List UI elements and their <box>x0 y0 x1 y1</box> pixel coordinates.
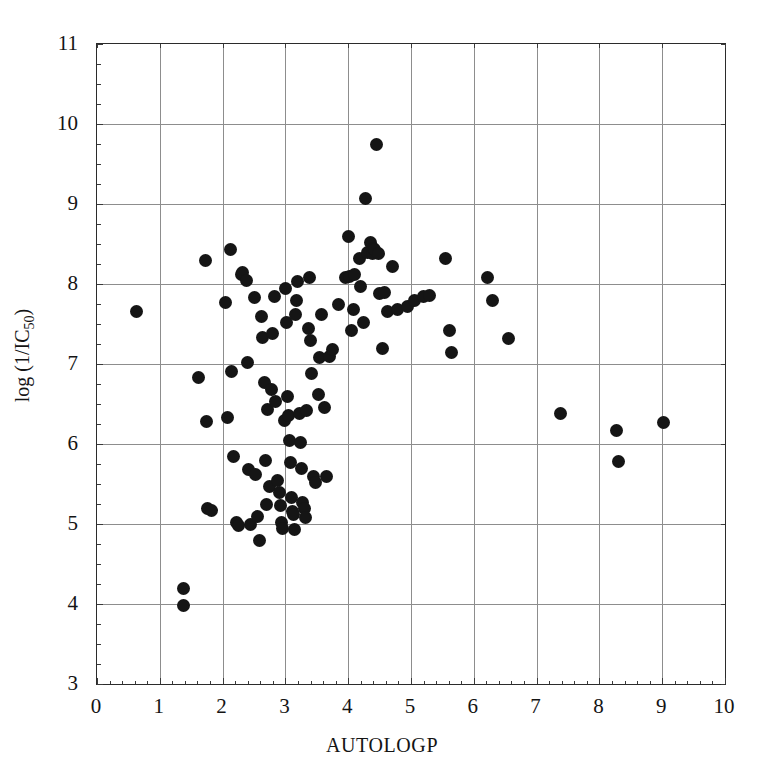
data-point <box>260 498 273 511</box>
x-axis-minor-tick <box>361 681 362 685</box>
y-axis-minor-tick <box>97 484 101 485</box>
gridline-horizontal <box>97 604 725 605</box>
y-axis-tick-label: 6 <box>68 431 79 455</box>
y-axis-minor-tick <box>97 344 101 345</box>
data-point <box>199 254 212 267</box>
x-axis-tick <box>537 678 538 684</box>
data-point <box>255 310 268 323</box>
data-point <box>378 286 391 299</box>
data-point <box>445 346 458 359</box>
x-axis-minor-tick <box>323 681 324 685</box>
x-axis-minor-tick <box>135 681 136 685</box>
x-axis-tick-label: 0 <box>91 694 102 718</box>
y-axis-title: log (1/IC50) <box>11 266 38 446</box>
x-axis-minor-tick <box>336 681 337 685</box>
data-point <box>268 290 281 303</box>
x-axis-minor-tick <box>687 681 688 685</box>
data-point <box>423 289 436 302</box>
data-point <box>345 324 358 337</box>
data-point <box>295 462 308 475</box>
y-axis-minor-tick <box>97 84 101 85</box>
x-axis-minor-tick <box>273 681 274 685</box>
x-axis-tick-label: 10 <box>714 694 735 718</box>
scatter-plot-figure: log (1/IC50) AUTOLOGP 012345678910345678… <box>0 0 764 771</box>
y-axis-minor-tick <box>97 244 101 245</box>
x-axis-minor-tick <box>386 681 387 685</box>
y-axis-tick-label: 10 <box>57 111 78 135</box>
data-point <box>315 308 328 321</box>
y-axis-tick <box>97 684 103 685</box>
data-point <box>610 424 623 437</box>
y-axis-minor-tick <box>97 384 101 385</box>
data-point <box>304 334 317 347</box>
data-point <box>443 324 456 337</box>
x-axis-minor-tick <box>650 681 651 685</box>
x-axis-minor-tick <box>587 681 588 685</box>
data-point <box>612 455 625 468</box>
x-axis-tick-label: 4 <box>342 694 353 718</box>
gridline-horizontal <box>97 524 725 525</box>
x-axis-tick <box>662 678 663 684</box>
x-axis-tick <box>725 678 726 684</box>
gridline-horizontal <box>97 124 725 125</box>
data-point <box>294 436 307 449</box>
data-point <box>300 404 313 417</box>
data-point <box>253 534 266 547</box>
y-axis-title-container: log (1/IC50) <box>0 0 40 771</box>
y-axis-tick-label: 7 <box>68 351 79 375</box>
gridline-horizontal <box>97 284 725 285</box>
y-axis-tick-label: 3 <box>68 671 79 695</box>
data-point <box>354 280 367 293</box>
data-point <box>251 510 264 523</box>
x-axis-tick-label: 6 <box>468 694 479 718</box>
x-axis-minor-tick <box>625 681 626 685</box>
data-point <box>305 367 318 380</box>
x-axis-minor-tick <box>373 681 374 685</box>
y-axis-tick-label: 5 <box>68 511 79 535</box>
data-point <box>486 294 499 307</box>
x-axis-minor-tick <box>210 681 211 685</box>
x-axis-tick-label: 9 <box>656 694 667 718</box>
y-axis-tick-label: 11 <box>58 31 78 55</box>
x-axis-minor-tick <box>486 681 487 685</box>
data-point <box>289 308 302 321</box>
data-point <box>130 305 143 318</box>
y-axis-minor-tick <box>97 664 101 665</box>
data-point <box>192 371 205 384</box>
x-axis-minor-tick <box>449 681 450 685</box>
gridline-horizontal <box>97 444 725 445</box>
data-point <box>372 247 385 260</box>
data-point <box>554 407 567 420</box>
data-point <box>657 416 670 429</box>
x-axis-title: AUTOLOGP <box>0 734 764 757</box>
x-axis-minor-tick <box>612 681 613 685</box>
data-point <box>281 390 294 403</box>
data-point <box>273 486 286 499</box>
data-point <box>177 582 190 595</box>
y-axis-tick-right <box>721 684 725 685</box>
y-axis-tick-right <box>721 44 725 45</box>
x-axis-minor-tick <box>424 681 425 685</box>
data-point <box>370 138 383 151</box>
data-point <box>241 356 254 369</box>
y-axis-minor-tick <box>97 324 101 325</box>
y-axis-tick <box>97 204 103 205</box>
y-axis-minor-tick <box>97 504 101 505</box>
gridline-horizontal <box>97 204 725 205</box>
x-axis-tick <box>348 678 349 684</box>
data-point <box>342 230 355 243</box>
y-axis-minor-tick <box>97 264 101 265</box>
x-axis-minor-tick <box>549 681 550 685</box>
x-axis-tick <box>411 678 412 684</box>
x-axis-tick-top <box>285 44 286 48</box>
y-axis-tick-label: 4 <box>68 591 79 615</box>
y-axis-tick-right <box>721 204 725 205</box>
x-axis-minor-tick <box>574 681 575 685</box>
y-axis-tick <box>97 124 103 125</box>
data-point <box>221 411 234 424</box>
y-axis-tick <box>97 364 103 365</box>
x-axis-tick <box>223 678 224 684</box>
data-point <box>439 252 452 265</box>
x-axis-tick-top <box>411 44 412 48</box>
x-axis-tick-top <box>662 44 663 48</box>
